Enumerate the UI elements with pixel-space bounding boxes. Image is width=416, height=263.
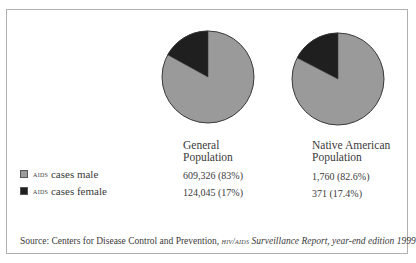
header-line: General bbox=[183, 139, 233, 151]
column-header-native-american-population: Native American Population bbox=[312, 139, 390, 163]
value-general-male: 609,326 (83%) bbox=[183, 170, 243, 182]
source-lead: Source: Centers for Disease Control and … bbox=[20, 236, 222, 246]
legend-item-female: AIDS cases female bbox=[20, 185, 107, 197]
legend-prefix: AIDS bbox=[33, 185, 48, 197]
source-org: HIV/AIDS bbox=[222, 237, 250, 246]
legend-prefix: AIDS bbox=[33, 168, 48, 180]
legend-item-male: AIDS cases male bbox=[20, 168, 98, 180]
header-line: Population bbox=[183, 151, 233, 163]
pie-general-population bbox=[160, 29, 256, 125]
value-general-female: 124,045 (17%) bbox=[183, 187, 243, 199]
legend-label: cases male bbox=[48, 168, 98, 180]
value-native-male: 1,760 (82.6%) bbox=[312, 171, 370, 183]
source-citation: Source: Centers for Disease Control and … bbox=[20, 236, 416, 247]
value-native-female: 371 (17.4%) bbox=[312, 188, 362, 200]
column-header-general-population: General Population bbox=[183, 139, 233, 163]
source-year: 1999 bbox=[397, 236, 416, 246]
header-line: Population bbox=[312, 151, 390, 163]
legend-swatch-female bbox=[20, 187, 28, 195]
header-line: Native American bbox=[312, 139, 390, 151]
legend-label: cases female bbox=[48, 185, 107, 197]
source-title: Surveillance Report, year-end edition bbox=[249, 236, 397, 246]
pie-native-american-population bbox=[290, 31, 386, 127]
legend-swatch-male bbox=[20, 170, 28, 178]
